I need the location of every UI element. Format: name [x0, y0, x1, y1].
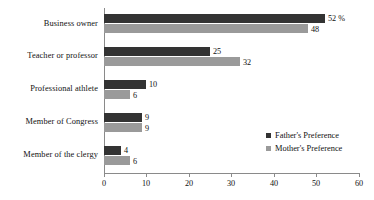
legend-item-mothers-preference: Mother's Preference	[266, 142, 374, 155]
x-axis-tick	[316, 173, 317, 177]
bar-value-label: 48	[311, 25, 319, 34]
x-axis-tick-label: 50	[304, 179, 328, 189]
legend-swatch-icon	[266, 133, 271, 138]
bar-value-label: 25	[213, 47, 221, 56]
bar-value-label: 4	[124, 146, 128, 155]
bar-mother-business-owner	[104, 24, 308, 33]
category-axis-labels: Business owner Teacher or professor Prof…	[0, 0, 100, 172]
category-label: Professional athlete	[0, 84, 98, 94]
bar-value-label: 9	[145, 124, 149, 133]
x-axis-tick	[189, 173, 190, 177]
legend-item-label: Father's Preference	[275, 129, 339, 142]
x-axis-tick-label: 10	[134, 179, 158, 189]
bar-mother-teacher-or-professor	[104, 57, 240, 66]
x-axis-tick	[274, 173, 275, 177]
category-label: Member of Congress	[0, 117, 98, 127]
x-axis-tick	[146, 173, 147, 177]
x-axis-tick-label: 0	[92, 179, 116, 189]
bar-mother-member-of-the-clergy	[104, 156, 130, 165]
x-axis-tick-label: 60	[347, 179, 371, 189]
bar-father-teacher-or-professor	[104, 47, 210, 56]
bar-value-label: 9	[145, 113, 149, 122]
bar-value-label: 10	[149, 80, 157, 89]
bar-value-label: 6	[133, 157, 137, 166]
bar-mother-professional-athlete	[104, 90, 130, 99]
x-axis-line	[104, 173, 360, 174]
legend-item-fathers-preference: Father's Preference	[266, 129, 374, 142]
bar-chart: Business owner Teacher or professor Prof…	[0, 0, 374, 200]
x-axis-tick	[231, 173, 232, 177]
x-axis-tick-label: 40	[262, 179, 286, 189]
bar-value-label: 32	[243, 58, 251, 67]
bar-mother-member-of-congress	[104, 123, 142, 132]
bar-father-member-of-congress	[104, 113, 142, 122]
category-label: Member of the clergy	[0, 150, 98, 160]
bar-father-professional-athlete	[104, 80, 146, 89]
category-label: Business owner	[0, 19, 98, 29]
bar-father-business-owner	[104, 14, 325, 23]
legend-swatch-icon	[266, 146, 271, 151]
x-axis-tick	[359, 173, 360, 177]
bar-value-label: 6	[133, 91, 137, 100]
x-axis-tick-label: 30	[219, 179, 243, 189]
chart-legend: Father's Preference Mother's Preference	[266, 129, 374, 155]
bar-value-label: 52 %	[328, 14, 345, 23]
bar-father-member-of-the-clergy	[104, 146, 121, 155]
category-label: Teacher or professor	[0, 51, 98, 61]
x-axis-tick	[104, 173, 105, 177]
legend-item-label: Mother's Preference	[275, 142, 342, 155]
x-axis-tick-label: 20	[177, 179, 201, 189]
